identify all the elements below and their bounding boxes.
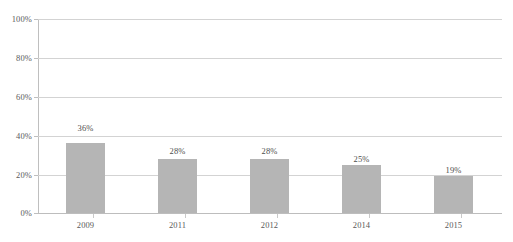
bar-2011[interactable] xyxy=(158,159,197,213)
x-axis-tick-2 xyxy=(185,214,186,218)
x-axis-label-2012: 2012 xyxy=(246,221,293,230)
x-axis-tick-3 xyxy=(277,214,278,218)
bar-2015[interactable] xyxy=(434,176,473,213)
bar-value-2009: 36% xyxy=(66,124,105,133)
bar-value-2012: 28% xyxy=(250,147,289,156)
x-axis-tick-5 xyxy=(461,214,462,218)
gridline-80 xyxy=(38,58,502,59)
gridline-0-baseline xyxy=(38,213,502,214)
bar-2009[interactable] xyxy=(66,143,105,213)
y-axis-label-80: 80% xyxy=(16,54,32,63)
y-axis-label-20: 20% xyxy=(16,171,32,180)
bar-value-2014: 25% xyxy=(342,155,381,164)
x-axis-label-2011: 2011 xyxy=(154,221,201,230)
bar-2012[interactable] xyxy=(250,159,289,213)
y-axis-label-100: 100% xyxy=(12,15,32,24)
x-axis-tick-4 xyxy=(369,214,370,218)
bar-chart: 100% 80% 60% 40% 20% 0% 36% 28% 28% 25% … xyxy=(0,0,513,242)
y-axis-label-0: 0% xyxy=(20,209,32,218)
y-axis-labels: 100% 80% 60% 40% 20% 0% xyxy=(0,0,32,242)
plot-area xyxy=(38,19,502,213)
gridline-100 xyxy=(38,19,502,20)
bar-2014[interactable] xyxy=(342,165,381,214)
x-axis-label-2009: 2009 xyxy=(62,221,109,230)
bar-value-2015: 19% xyxy=(434,166,473,175)
bar-value-2011: 28% xyxy=(158,147,197,156)
x-axis-tick-1 xyxy=(93,214,94,218)
gridline-60 xyxy=(38,97,502,98)
y-axis-label-60: 60% xyxy=(16,93,32,102)
y-axis-label-40: 40% xyxy=(16,132,32,141)
x-axis-label-2014: 2014 xyxy=(338,221,385,230)
x-axis-label-2015: 2015 xyxy=(430,221,477,230)
gridline-40 xyxy=(38,136,502,137)
